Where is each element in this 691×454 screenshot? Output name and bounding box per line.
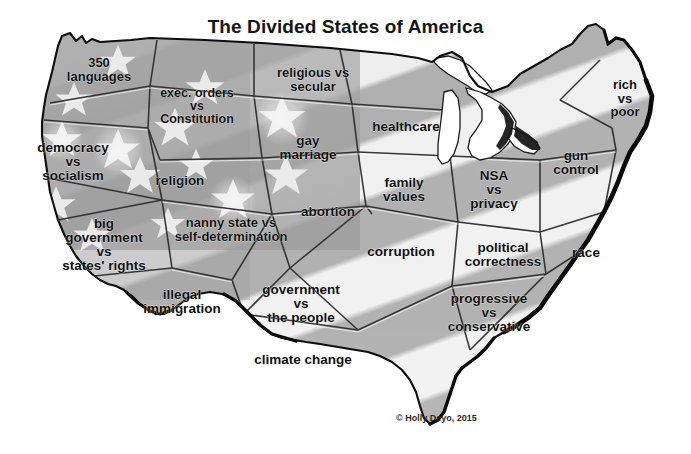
issue-label-illegal-immigration: illegal immigration — [143, 288, 220, 316]
issue-label-political-correctness: political correctness — [465, 241, 542, 269]
divided-states-map-figure: The Divided States of America 350 langua… — [0, 0, 691, 454]
issue-label-gun-control: gun control — [553, 149, 599, 177]
copyright-notice: © Holly Deyo, 2015 — [396, 413, 477, 423]
issue-label-government-people: government vs the people — [262, 283, 339, 325]
issue-label-exec-orders: exec. orders vs Constitution — [160, 87, 234, 126]
issue-label-democracy: democracy vs socialism — [37, 141, 108, 183]
issue-label-abortion: abortion — [301, 205, 355, 219]
issue-label-progressive: progressive vs conservative — [448, 292, 531, 334]
issue-label-religion: religion — [156, 174, 205, 188]
issue-label-rich-poor: rich vs poor — [611, 78, 640, 119]
issue-label-race: race — [572, 246, 600, 260]
issue-label-languages: 350 languages — [67, 56, 131, 83]
issue-label-big-government: big government vs states' rights — [62, 217, 146, 273]
issue-label-gay-marriage: gay marriage — [279, 134, 336, 162]
issue-label-climate-change: climate change — [254, 353, 352, 367]
issue-label-religious-secular: religious vs secular — [277, 66, 349, 93]
issue-label-nanny-state: nanny state vs self-determination — [175, 216, 288, 243]
issue-label-healthcare: healthcare — [372, 120, 440, 134]
issue-label-corruption: corruption — [367, 245, 435, 259]
issue-label-family-values: family values — [383, 176, 425, 204]
issue-label-nsa-privacy: NSA vs privacy — [470, 169, 517, 211]
